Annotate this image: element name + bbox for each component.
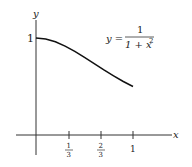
x-axis-label: x (173, 129, 179, 140)
svg-text:y =: y = (105, 33, 123, 44)
svg-text:2: 2 (99, 142, 103, 150)
y-tick-label-1: 1 (27, 32, 34, 45)
chart: x y 1 1 3 2 3 1 y = 1 1 + x 2 (0, 0, 192, 167)
svg-text:1: 1 (137, 24, 143, 35)
curve-line (36, 38, 133, 87)
y-axis-label: y (32, 8, 39, 19)
svg-text:2: 2 (149, 37, 153, 45)
x-tick-label-1: 1 (130, 144, 136, 154)
x-tick-label-1-3: 1 3 (65, 142, 73, 159)
equation-label: y = 1 1 + x 2 (105, 24, 154, 50)
svg-text:3: 3 (99, 151, 103, 159)
svg-text:1: 1 (67, 142, 71, 150)
svg-text:3: 3 (67, 151, 71, 159)
x-tick-label-2-3: 2 3 (97, 142, 105, 159)
